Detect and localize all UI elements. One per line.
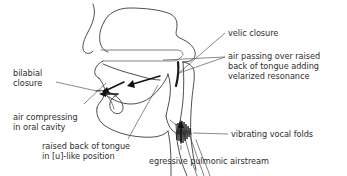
label-bilabial-line2: closure bbox=[13, 78, 42, 88]
label-vibrating-vocal-folds: vibrating vocal folds bbox=[231, 129, 313, 139]
leader-air-passing bbox=[179, 57, 225, 73]
label-raised-back-line1: raised back of tongue bbox=[42, 141, 130, 151]
leader-bilabial-closure bbox=[56, 82, 101, 92]
airflow-arrowhead-upper bbox=[127, 80, 135, 88]
tongue-root bbox=[166, 74, 170, 116]
label-egressive-airstream: egressive pulmonic airstream bbox=[149, 156, 269, 166]
neck-front-line bbox=[168, 131, 171, 176]
label-air-compressing-line2: in oral cavity bbox=[13, 122, 65, 132]
head-outline bbox=[104, 8, 195, 62]
hard-palate bbox=[103, 64, 160, 80]
forehead-hook-line bbox=[83, 4, 95, 53]
label-raised-back-line2: in [u]-like position bbox=[42, 151, 115, 161]
vocal-tract-diagram: velic closure air passing over raised ba… bbox=[0, 0, 347, 176]
airflow-arrow-middle bbox=[107, 82, 124, 90]
label-air-passing-line2: back of tongue adding bbox=[228, 61, 319, 71]
leader-raised-back-of-tongue bbox=[128, 85, 158, 139]
label-air-passing-line3: velarized resonance bbox=[228, 71, 309, 81]
egressive-airstream-arrowhead bbox=[178, 120, 184, 128]
nasal-cavity-floor bbox=[103, 56, 182, 61]
nasal-cavity-upper-wall bbox=[101, 50, 183, 55]
label-bilabial-line1: bilabial bbox=[13, 68, 42, 78]
label-air-compressing-line1: air compressing bbox=[13, 112, 78, 122]
nose-outline bbox=[95, 61, 103, 78]
label-air-passing-line1: air passing over raised bbox=[228, 51, 320, 61]
skull-base-line bbox=[100, 22, 108, 52]
leader-velic-closure bbox=[180, 33, 225, 72]
label-velic-closure: velic closure bbox=[228, 28, 278, 38]
velum-closure-stroke bbox=[176, 62, 178, 86]
trachea-line-1 bbox=[184, 133, 197, 176]
vocal-folds-vibration bbox=[176, 121, 191, 143]
tongue-body bbox=[106, 74, 168, 104]
leader-vibrating-vocal-folds bbox=[193, 133, 228, 134]
jaw-line bbox=[97, 108, 168, 137]
